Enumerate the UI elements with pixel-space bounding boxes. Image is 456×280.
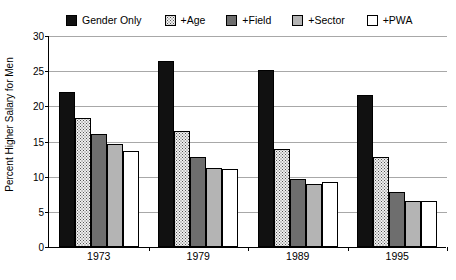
- legend-swatch-icon-pwa: [367, 15, 378, 26]
- plot-wrapper: 051015202530 1973197919891995: [48, 36, 446, 248]
- legend-swatch-icon-field: [226, 15, 237, 26]
- bar: [206, 168, 222, 247]
- x-axis-tick-mark: [348, 247, 349, 251]
- bar: [59, 92, 75, 247]
- x-axis-tick-mark: [248, 247, 249, 251]
- bar: [389, 192, 405, 247]
- bar-group: [49, 36, 149, 247]
- x-axis-tick-label: 1979: [187, 250, 210, 262]
- x-axis-tick-label: 1973: [87, 250, 110, 262]
- y-axis-tick-mark: [45, 247, 49, 248]
- y-axis-tick-label: 5: [38, 206, 44, 217]
- y-axis-tick-label: 25: [33, 66, 44, 77]
- legend-item-age: +Age: [165, 15, 206, 26]
- y-axis-tick-label: 20: [33, 101, 44, 112]
- bar: [91, 134, 107, 247]
- bar-group: [348, 36, 448, 247]
- x-axis-tick-mark: [447, 247, 448, 251]
- chart-legend: Gender Only +Age +Field +Sector +PWA: [66, 11, 442, 29]
- legend-item-field: +Field: [226, 15, 271, 26]
- bar: [290, 179, 306, 247]
- plot-area: 051015202530 1973197919891995: [48, 36, 446, 248]
- bar: [373, 157, 389, 247]
- legend-swatch-icon-age: [165, 15, 176, 26]
- legend-item-pwa: +PWA: [367, 15, 413, 26]
- legend-label-pwa: +PWA: [383, 15, 413, 26]
- bar: [158, 61, 174, 247]
- bar: [258, 70, 274, 247]
- y-axis-tick-label: 15: [33, 136, 44, 147]
- bar: [357, 95, 373, 247]
- bar: [222, 169, 238, 247]
- bar-group: [248, 36, 348, 247]
- bar: [75, 118, 91, 247]
- bar: [107, 144, 123, 247]
- bar-group: [149, 36, 249, 247]
- bar: [306, 184, 322, 247]
- legend-swatch-icon-sector: [292, 15, 303, 26]
- y-axis-tick-label: 10: [33, 171, 44, 182]
- bar: [174, 131, 190, 247]
- legend-item-sector: +Sector: [292, 15, 344, 26]
- bar: [322, 182, 338, 247]
- legend-label-sector: +Sector: [308, 15, 344, 26]
- bar-chart: Gender Only +Age +Field +Sector +PWA Per…: [0, 0, 456, 280]
- legend-label-field: +Field: [242, 15, 271, 26]
- y-axis-title: Percent Higher Salary for Men: [0, 0, 18, 248]
- bar: [274, 149, 290, 247]
- legend-swatch-icon-gender-only: [66, 15, 77, 26]
- bars-layer: [49, 36, 447, 247]
- legend-item-gender-only: Gender Only: [66, 15, 142, 26]
- x-axis-tick-label: 1989: [286, 250, 309, 262]
- legend-label-age: +Age: [181, 15, 206, 26]
- y-axis-tick-label: 0: [38, 242, 44, 253]
- bar: [123, 151, 139, 247]
- bar: [405, 201, 421, 247]
- bar: [421, 201, 437, 247]
- x-axis-tick-mark: [149, 247, 150, 251]
- bar: [190, 157, 206, 247]
- y-axis-tick-label: 30: [33, 31, 44, 42]
- y-axis-title-text: Percent Higher Salary for Men: [4, 57, 15, 192]
- legend-label-gender-only: Gender Only: [82, 15, 142, 26]
- x-axis-tick-label: 1995: [386, 250, 409, 262]
